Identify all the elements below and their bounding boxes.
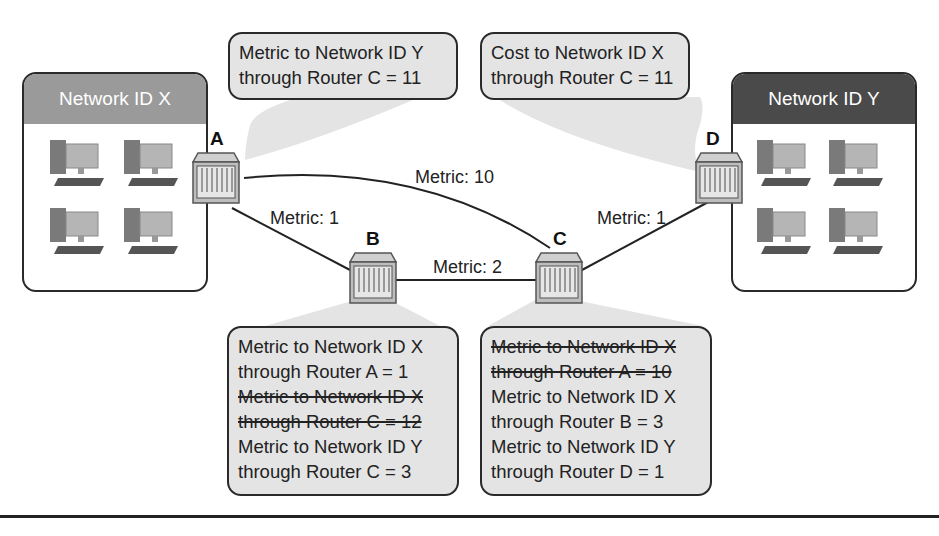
computer-icon bbox=[755, 138, 815, 190]
router-d-icon[interactable] bbox=[695, 152, 743, 204]
computer-icon bbox=[755, 206, 815, 258]
router-d-label: D bbox=[706, 128, 720, 150]
router-b-icon[interactable] bbox=[349, 252, 397, 304]
routing-bubble-a: Metric to Network ID Y through Router C … bbox=[228, 32, 458, 100]
computer-icon bbox=[122, 138, 182, 190]
computer-icon bbox=[827, 206, 887, 258]
routing-bubble-d: Cost to Network ID X through Router C = … bbox=[480, 32, 690, 100]
bubble-line: Cost to Network ID X bbox=[491, 40, 679, 65]
router-c-icon[interactable] bbox=[535, 252, 583, 304]
network-x-label: Network ID X bbox=[59, 88, 171, 109]
router-c-label: C bbox=[553, 228, 567, 250]
router-b-label: B bbox=[366, 228, 380, 250]
router-a-icon[interactable] bbox=[192, 152, 240, 204]
bubble-line: through Router B = 3 bbox=[491, 409, 701, 434]
bubble-line: through Router A = 1 bbox=[238, 359, 448, 384]
bottom-rule bbox=[0, 515, 939, 518]
bubble-line-struck: Metric to Network ID X bbox=[491, 334, 701, 359]
network-y-label: Network ID Y bbox=[768, 88, 880, 109]
bubble-tail-c bbox=[488, 300, 703, 326]
network-x-box: Network ID X bbox=[22, 72, 208, 292]
bubble-line: through Router D = 1 bbox=[491, 459, 701, 484]
link-a-c-metric: Metric: 10 bbox=[415, 167, 494, 188]
routing-bubble-c: Metric to Network ID X through Router A … bbox=[480, 326, 712, 496]
network-x-header: Network ID X bbox=[24, 74, 206, 124]
bubble-line-struck: through Router C = 12 bbox=[238, 409, 448, 434]
link-b-c-metric: Metric: 2 bbox=[433, 257, 502, 278]
link-a-b-metric: Metric: 1 bbox=[270, 208, 339, 229]
computer-icon bbox=[827, 138, 887, 190]
bubble-line: through Router C = 3 bbox=[238, 459, 448, 484]
bubble-tail-d bbox=[495, 97, 703, 172]
bubble-line-struck: through Router A = 10 bbox=[491, 359, 701, 384]
bubble-line: through Router C = 11 bbox=[491, 65, 679, 90]
bubble-line-struck: Metric to Network ID X bbox=[238, 384, 448, 409]
bubble-line: through Router C = 11 bbox=[239, 65, 447, 90]
network-y-box: Network ID Y bbox=[731, 72, 917, 292]
network-y-header: Network ID Y bbox=[733, 74, 915, 124]
computer-icon bbox=[48, 138, 108, 190]
bubble-line: Metric to Network ID X bbox=[238, 334, 448, 359]
computer-icon bbox=[48, 206, 108, 258]
router-a-label: A bbox=[210, 128, 224, 150]
bubble-line: Metric to Network ID Y bbox=[238, 434, 448, 459]
computer-icon bbox=[122, 206, 182, 258]
bubble-line: Metric to Network ID Y bbox=[491, 434, 701, 459]
bubble-tail-a bbox=[245, 97, 420, 160]
link-c-d-metric: Metric: 1 bbox=[597, 208, 666, 229]
bubble-line: Metric to Network ID X bbox=[491, 384, 701, 409]
bubble-line: Metric to Network ID Y bbox=[239, 40, 447, 65]
routing-bubble-b: Metric to Network ID X through Router A … bbox=[227, 326, 459, 496]
